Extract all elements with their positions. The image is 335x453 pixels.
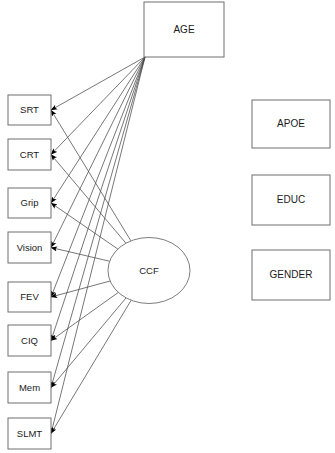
node-gender[interactable]: GENDER <box>252 250 330 300</box>
path-diagram-canvas: AGESRTCRTGripVisionFEVCIQMemSLMTCCFAPOEE… <box>0 0 335 453</box>
node-label: EDUC <box>277 194 305 205</box>
diagram-svg: AGESRTCRTGripVisionFEVCIQMemSLMTCCFAPOEE… <box>0 0 335 453</box>
node-label: CCF <box>139 265 159 276</box>
node-crt[interactable]: CRT <box>8 139 51 170</box>
node-ccf: CCF <box>108 238 190 304</box>
node-label: Vision <box>17 242 43 253</box>
edge-ccf-to-slmt <box>51 300 131 433</box>
node-label: SRT <box>20 104 39 115</box>
node-age[interactable]: AGE <box>144 2 224 57</box>
node-label: SLMT <box>17 428 43 439</box>
node-slmt[interactable]: SLMT <box>8 418 51 449</box>
edge-ccf-to-mem <box>51 298 126 388</box>
node-label: APOE <box>277 118 305 129</box>
edge-ccf-to-grip <box>51 203 118 249</box>
node-label: Mem <box>19 382 40 393</box>
edge-age-to-vision <box>51 57 145 248</box>
edge-ccf-to-srt <box>51 110 131 241</box>
node-label: AGE <box>173 24 194 35</box>
node-educ[interactable]: EDUC <box>252 175 330 225</box>
node-label: CRT <box>20 149 40 160</box>
node-label: CIQ <box>21 335 38 346</box>
nodes-layer: AGESRTCRTGripVisionFEVCIQMemSLMTCCFAPOEE… <box>8 2 330 449</box>
node-grip[interactable]: Grip <box>8 188 51 218</box>
node-vision[interactable]: Vision <box>8 232 51 263</box>
node-label: Grip <box>21 197 39 208</box>
edge-age-to-mem <box>51 57 145 388</box>
node-fev[interactable]: FEV <box>8 282 51 312</box>
edge-age-to-srt <box>51 57 145 110</box>
edge-ccf-to-vision <box>51 248 110 262</box>
node-label: FEV <box>20 291 39 302</box>
node-apoe[interactable]: APOE <box>252 100 330 148</box>
edge-ccf-to-crt <box>51 155 126 244</box>
node-label: GENDER <box>270 269 313 280</box>
node-ciq[interactable]: CIQ <box>8 325 51 356</box>
node-srt[interactable]: SRT <box>8 95 51 125</box>
node-mem[interactable]: Mem <box>8 372 51 403</box>
edge-age-to-grip <box>51 57 145 203</box>
